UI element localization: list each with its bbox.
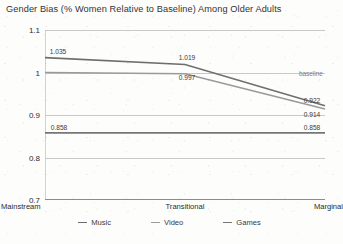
data-label-video-marginal: 0.914 (304, 111, 321, 118)
plot-area: 1.1 1 0.9 0.8 0.7 Mainstream Transitiona… (45, 30, 325, 200)
data-label-video-transitional: 0.997 (179, 73, 196, 80)
x-tick-label-transitional: Transitional (166, 202, 205, 211)
baseline-annotation: baseline (299, 69, 323, 76)
data-label-music-mainstream: 1.035 (50, 47, 67, 54)
data-label-games-marginal: 0.858 (304, 123, 321, 130)
legend-item-video[interactable]: Video (151, 218, 183, 227)
data-label-games-mainstream: 0.858 (51, 123, 68, 130)
chart-title: Gender Bias (% Women Relative to Baselin… (6, 4, 282, 14)
x-tick-label-mainstream: Mainstream (1, 202, 41, 211)
legend-swatch-games-icon (223, 222, 232, 224)
y-tick-label-3: 1 (36, 68, 40, 77)
legend-label-games: Games (236, 218, 260, 227)
data-label-music-marginal: 0.922 (304, 96, 321, 103)
y-tick-label-1: 0.8 (29, 153, 40, 162)
chart-legend: Music Video Games (0, 218, 339, 227)
y-tick-label-2: 0.9 (29, 111, 40, 120)
data-label-music-transitional: 1.019 (179, 54, 196, 61)
y-tick-label-4: 1.1 (29, 26, 40, 35)
legend-item-games[interactable]: Games (223, 218, 260, 227)
legend-label-video: Video (164, 218, 183, 227)
legend-label-music: Music (91, 218, 111, 227)
legend-swatch-music-icon (78, 222, 87, 224)
legend-item-music[interactable]: Music (78, 218, 111, 227)
x-tick-label-marginal: Marginal (314, 202, 343, 211)
legend-swatch-video-icon (151, 222, 160, 224)
